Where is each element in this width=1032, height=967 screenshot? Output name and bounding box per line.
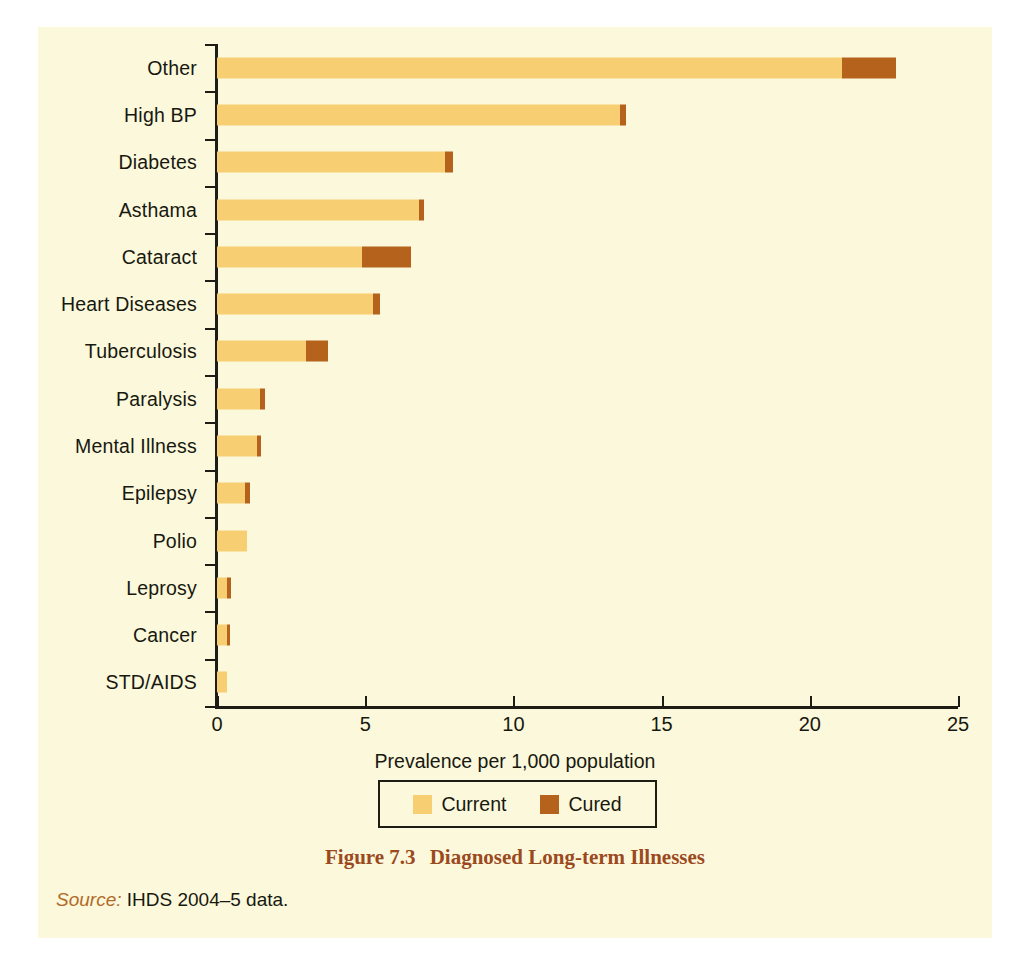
- y-axis-category-label: Cataract: [122, 245, 197, 268]
- x-axis-tick: [217, 696, 219, 707]
- y-axis-category-label: Tuberculosis: [85, 340, 197, 363]
- y-axis-category-label: STD/AIDS: [105, 671, 197, 694]
- bar-segment-cured: [419, 199, 425, 220]
- x-axis-tick: [810, 696, 812, 707]
- legend-item-cured: Cured: [540, 793, 621, 816]
- x-axis-tick: [662, 696, 664, 707]
- y-axis-tick: [205, 611, 216, 613]
- x-axis-tick-label: 10: [502, 713, 524, 736]
- bar-segment-cured: [362, 246, 411, 267]
- y-axis-tick: [205, 706, 216, 708]
- chart-plot-area: OtherHigh BPDiabetesAsthamaCataractHeart…: [38, 27, 992, 727]
- bar-segment-cured: [445, 152, 452, 173]
- y-axis-tick: [205, 564, 216, 566]
- figure-caption-title: Diagnosed Long-term Illnesses: [430, 845, 705, 869]
- bar-segment-current: [217, 294, 373, 315]
- legend-label-current: Current: [441, 793, 506, 816]
- x-axis-tick-label: 5: [360, 713, 371, 736]
- y-axis-category-label: High BP: [124, 103, 197, 126]
- y-axis-tick: [205, 139, 216, 141]
- bar-segment-current: [217, 152, 445, 173]
- y-axis-tick: [205, 186, 216, 188]
- legend-swatch-cured: [540, 795, 559, 814]
- figure-panel: OtherHigh BPDiabetesAsthamaCataractHeart…: [38, 27, 992, 938]
- bar-segment-cured: [373, 294, 380, 315]
- bar-row: [217, 341, 328, 362]
- bar-row: [217, 625, 230, 646]
- bar-segment-current: [217, 341, 306, 362]
- y-axis-category-label: Polio: [153, 529, 197, 552]
- legend-item-current: Current: [413, 793, 506, 816]
- x-axis-title: Prevalence per 1,000 population: [38, 750, 992, 773]
- bar-row: [217, 57, 896, 78]
- bar-segment-current: [217, 104, 620, 125]
- y-axis-category-label: Asthama: [119, 198, 197, 221]
- bar-segment-current: [217, 435, 257, 456]
- legend-swatch-current: [413, 795, 432, 814]
- x-axis-tick: [513, 696, 515, 707]
- y-axis-category-label: Diabetes: [118, 151, 197, 174]
- y-axis-category-label: Heart Diseases: [61, 293, 197, 316]
- y-axis-tick: [205, 280, 216, 282]
- figure-source-label: Source:: [56, 889, 121, 910]
- bar-segment-cured: [227, 577, 231, 598]
- bar-row: [217, 672, 227, 693]
- y-axis-tick: [205, 375, 216, 377]
- figure-source: Source: IHDS 2004–5 data.: [56, 889, 288, 911]
- bar-segment-cured: [620, 104, 626, 125]
- bar-segment-current: [217, 577, 227, 598]
- x-axis-tick-label: 0: [211, 713, 222, 736]
- bar-row: [217, 246, 411, 267]
- bar-segment-current: [217, 625, 227, 646]
- y-axis-tick: [205, 91, 216, 93]
- y-axis-category-label: Epilepsy: [122, 482, 197, 505]
- bar-segment-cured: [257, 435, 261, 456]
- bar-row: [217, 577, 231, 598]
- x-axis-tick-label: 25: [947, 713, 969, 736]
- figure-source-text: IHDS 2004–5 data.: [127, 889, 289, 910]
- bar-segment-current: [217, 199, 419, 220]
- y-axis-tick: [205, 470, 216, 472]
- bar-row: [217, 199, 424, 220]
- y-axis-category-label: Cancer: [133, 624, 197, 647]
- bar-segment-cured: [227, 625, 230, 646]
- bar-row: [217, 152, 453, 173]
- x-axis-tick-label: 20: [799, 713, 821, 736]
- y-axis-tick: [205, 328, 216, 330]
- y-axis-tick: [205, 422, 216, 424]
- x-axis-tick: [958, 696, 960, 707]
- x-axis-line: [215, 706, 958, 709]
- bar-segment-current: [217, 57, 842, 78]
- bar-segment-cured: [245, 483, 249, 504]
- bar-segment-current: [217, 483, 245, 504]
- bar-segment-current: [217, 672, 227, 693]
- x-axis-tick-label: 15: [650, 713, 672, 736]
- bar-row: [217, 435, 261, 456]
- y-axis-category-label: Mental Illness: [75, 434, 197, 457]
- bar-segment-current: [217, 246, 362, 267]
- y-axis-tick: [205, 517, 216, 519]
- figure-caption: Figure 7.3Diagnosed Long-term Illnesses: [38, 845, 992, 870]
- y-axis-category-label: Leprosy: [126, 576, 197, 599]
- bar-segment-cured: [842, 57, 895, 78]
- chart-legend: Current Cured: [378, 780, 657, 828]
- y-axis-tick: [205, 659, 216, 661]
- bar-row: [217, 294, 380, 315]
- bar-row: [217, 104, 626, 125]
- bar-segment-current: [217, 530, 247, 551]
- y-axis-category-label: Other: [147, 56, 197, 79]
- x-axis-tick: [365, 696, 367, 707]
- bar-row: [217, 388, 265, 409]
- bar-segment-cured: [306, 341, 328, 362]
- legend-label-cured: Cured: [568, 793, 621, 816]
- bar-segment-cured: [260, 388, 265, 409]
- y-axis-category-label: Paralysis: [116, 387, 197, 410]
- y-axis-tick: [205, 44, 216, 46]
- y-axis-tick: [205, 233, 216, 235]
- bar-segment-current: [217, 388, 260, 409]
- figure-caption-number: Figure 7.3: [325, 845, 416, 869]
- bar-row: [217, 530, 247, 551]
- bar-row: [217, 483, 250, 504]
